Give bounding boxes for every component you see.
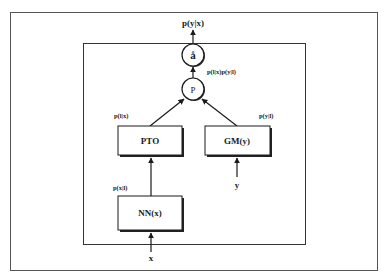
gm-to-product-arrow: [202, 99, 237, 126]
pto-out-label: p(l|x): [114, 112, 128, 120]
y-input-label: y: [235, 180, 240, 190]
diagram-canvas: p(y|x) å p(l|x)p(y|l) P p(l|x) p(y|l) PT…: [0, 0, 388, 278]
sum-node-label: å: [190, 49, 196, 61]
product-node: P: [182, 78, 205, 101]
pto-node: PTO: [118, 126, 184, 157]
gm-out-label: p(y|l): [259, 112, 273, 120]
gm-node-label: GM(y): [224, 136, 250, 146]
sum-node: å: [182, 44, 205, 67]
output-label: p(y|x): [182, 18, 204, 28]
system-boundary-box: [84, 44, 306, 245]
product-node-label: P: [190, 85, 195, 95]
pto-node-label: PTO: [141, 136, 159, 146]
nn-node: NN(x): [118, 196, 184, 232]
x-input-label: x: [149, 253, 154, 263]
product-out-label: p(l|x)p(y|l): [207, 68, 236, 76]
gm-node: GM(y): [205, 126, 272, 157]
nn-node-label: NN(x): [138, 208, 162, 218]
nn-out-label: p(x|l): [113, 184, 127, 192]
pto-to-product-arrow: [150, 99, 184, 126]
